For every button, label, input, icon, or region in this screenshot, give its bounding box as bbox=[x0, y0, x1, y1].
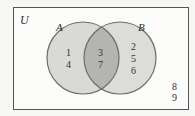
a-only-element: 4 bbox=[66, 59, 71, 70]
b-only-element: 5 bbox=[131, 53, 136, 64]
set-b-label: B bbox=[138, 21, 145, 33]
intersection-element: 3 bbox=[98, 47, 103, 58]
universe-label: U bbox=[20, 13, 30, 27]
b-only-element: 2 bbox=[131, 41, 136, 52]
intersection-element: 7 bbox=[98, 59, 103, 70]
b-only-element: 6 bbox=[131, 65, 136, 76]
a-only-element: 1 bbox=[66, 47, 71, 58]
outside-element: 8 bbox=[172, 81, 177, 92]
set-a-label: A bbox=[55, 21, 63, 33]
venn-diagram: U A B 1 4 3 7 2 5 6 8 9 bbox=[0, 0, 195, 116]
outside-element: 9 bbox=[172, 92, 177, 103]
